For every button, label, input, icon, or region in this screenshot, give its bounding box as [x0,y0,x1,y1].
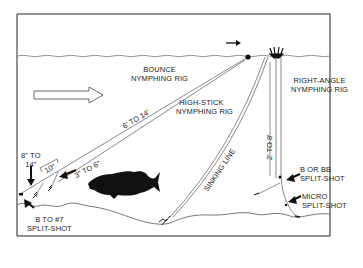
b-to-7-split-shot-label: B TO #7 SPLIT-SHOT [27,216,72,233]
label-line: SPLIT-SHOT [300,175,345,184]
b-or-bb-split-shot-label: B OR BB SPLIT-SHOT [300,166,345,183]
high-stick-rig-label: HIGH-STICK NYMPHING RIG [176,99,233,116]
water-surface [17,55,330,57]
label-line: SPLIT-SHOT [27,225,72,234]
micro-split-shot-label: MICRO SPLIT-SHOT [302,193,347,210]
trout-silhouette-icon [88,171,160,199]
bounce-rig-label: BOUNCE NYMPHING RIG [131,66,188,83]
label-line: NYMPHING RIG [176,108,233,117]
label-line: 14" [21,161,41,170]
nymph-fly-icon [295,216,300,217]
right-angle-rig-label: RIGHT-ANGLE NYMPHING RIG [291,77,348,94]
eight-to-fourteen-label: 8" TO 14" [21,152,41,169]
micro-split-shot-icon [285,204,287,206]
split-shot-icon [19,193,23,196]
nymph-fly-icon [33,192,37,198]
two-to-eight-label: 2' TO 8' [265,134,274,160]
dropper-line-right [258,183,280,194]
split-shot-icon [279,176,282,179]
label-line: NYMPHING RIG [131,75,188,84]
strike-indicator-icon [270,47,283,58]
nymph-fly-icon [48,185,52,191]
label-line: NYMPHING RIG [291,86,348,95]
dropper-line-1 [36,183,43,197]
frame-border [17,14,330,236]
strike-indicator-icon [245,54,250,59]
current-direction-arrow-icon [34,87,103,103]
label-line: SPLIT-SHOT [302,202,347,211]
